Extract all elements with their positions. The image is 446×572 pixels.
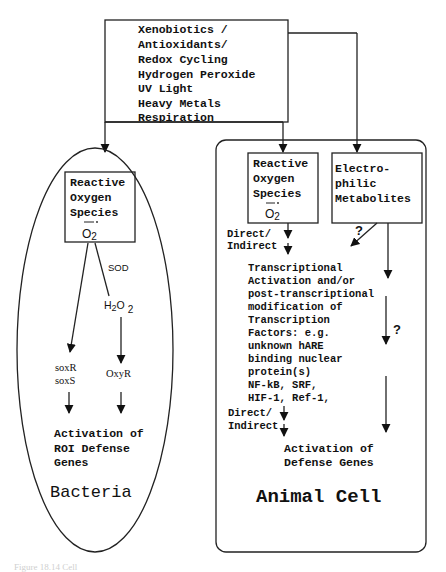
svg-text:protein(s): protein(s) — [248, 366, 311, 378]
arrow-to-h2o2 — [95, 243, 109, 296]
svg-text:Activation and/or: Activation and/or — [248, 275, 355, 287]
svg-text:NF-kB, SRF,: NF-kB, SRF, — [248, 379, 317, 391]
svg-text:soxS: soxS — [55, 375, 76, 386]
svg-text:Transcription: Transcription — [248, 314, 330, 326]
svg-text:modification of: modification of — [248, 301, 343, 313]
svg-text:philic: philic — [335, 177, 377, 190]
svg-text:Genes: Genes — [54, 456, 89, 469]
defense-gene-diagram: Xenobiotics / Antioxidants/ Redox Cyclin… — [0, 0, 446, 572]
svg-text:Reactive: Reactive — [70, 176, 125, 189]
superoxide-label: O2 — [82, 227, 97, 242]
oxyr-label: OxyR — [106, 368, 131, 379]
transcription-factors-text: Transcriptional Activation and/or post-t… — [248, 262, 374, 404]
svg-text:Xenobiotics /: Xenobiotics / — [138, 23, 228, 36]
svg-text:Reactive: Reactive — [253, 157, 308, 170]
svg-text:post-transcriptional: post-transcriptional — [248, 288, 374, 300]
direct-indirect-label-1: Direct/ Indirect — [227, 228, 277, 252]
svg-text:Redox Cycling: Redox Cycling — [138, 53, 228, 66]
svg-text:Direct/: Direct/ — [228, 407, 272, 419]
svg-text:UV Light: UV Light — [138, 82, 193, 95]
svg-text:Oxygen: Oxygen — [253, 172, 295, 185]
svg-text:Activation of: Activation of — [284, 442, 374, 455]
svg-text:ROI Defense: ROI Defense — [54, 442, 130, 455]
animal-cell-title: Animal Cell — [256, 486, 381, 508]
svg-text:Defense Genes: Defense Genes — [284, 456, 374, 469]
radical-dot — [277, 202, 279, 204]
superoxide-label: O2 — [265, 207, 280, 222]
direct-indirect-label-2: Direct/ Indirect — [228, 407, 278, 432]
animal-ros-text: Reactive Oxygen Species — [253, 157, 308, 200]
svg-text:Metabolites: Metabolites — [335, 192, 411, 205]
svg-text:Antioxidants/: Antioxidants/ — [138, 38, 228, 51]
soxrs-label: soxR soxS — [55, 362, 77, 386]
svg-text:Hydrogen Peroxide: Hydrogen Peroxide — [138, 68, 255, 81]
stimuli-text: Xenobiotics / Antioxidants/ Redox Cyclin… — [138, 23, 255, 124]
sod-label: SOD — [108, 262, 129, 273]
svg-text:binding nuclear: binding nuclear — [248, 353, 343, 365]
svg-text:Oxygen: Oxygen — [70, 191, 112, 204]
question-mark-2: ? — [393, 322, 401, 337]
svg-text:Heavy Metals: Heavy Metals — [138, 97, 221, 110]
bacteria-title: Bacteria — [50, 483, 132, 502]
electrophilic-text: Electro- philic Metabolites — [335, 162, 411, 205]
svg-text:Activation of: Activation of — [54, 427, 144, 440]
bacteria-ros-text: Reactive Oxygen Species — [70, 176, 125, 219]
question-mark-1: ? — [355, 223, 363, 238]
svg-text:Indirect: Indirect — [228, 420, 278, 432]
svg-text:Direct/: Direct/ — [227, 228, 271, 240]
svg-text:soxR: soxR — [55, 362, 77, 373]
svg-text:HIF-1, Ref-1,: HIF-1, Ref-1, — [248, 392, 330, 404]
h2o2-label: H2O2 — [104, 299, 134, 315]
svg-text:Species: Species — [70, 206, 118, 219]
bacteria-outcome: Activation of ROI Defense Genes — [54, 427, 144, 469]
arrow-to-soxrs — [70, 243, 88, 352]
animal-outcome: Activation of Defense Genes — [284, 442, 374, 469]
figure-caption: Figure 18.14 Cell — [14, 562, 78, 572]
svg-text:Electro-: Electro- — [335, 162, 390, 175]
svg-text:Factors: e.g.: Factors: e.g. — [248, 327, 330, 339]
radical-dot — [96, 221, 98, 223]
svg-text:Transcriptional: Transcriptional — [248, 262, 343, 274]
svg-text:Species: Species — [253, 187, 301, 200]
svg-text:unknown hARE: unknown hARE — [248, 340, 324, 352]
svg-text:Indirect: Indirect — [227, 240, 277, 252]
